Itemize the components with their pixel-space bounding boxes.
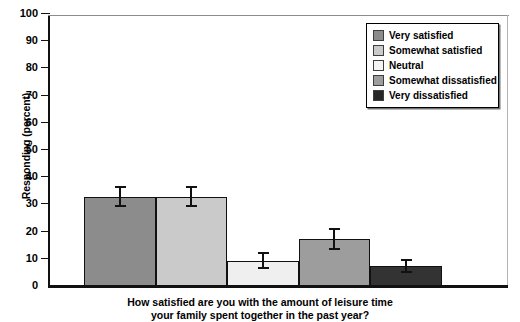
error-bar-cap-bottom: [258, 267, 269, 269]
error-bar-cap-top: [401, 259, 412, 261]
legend-swatch-icon: [373, 30, 384, 41]
error-bar-cap-top: [329, 228, 340, 230]
legend-item-1: Somewhat satisfied: [373, 43, 493, 58]
y-tick-mark: [41, 122, 50, 123]
caption-line-2: your family spent together in the past y…: [0, 309, 520, 322]
error-bar-cap-bottom: [401, 271, 412, 273]
y-tick-label: 0: [32, 279, 38, 291]
legend-item-0: Very satisfied: [373, 28, 493, 43]
legend-item-label: Neutral: [389, 61, 423, 71]
legend-item-label: Very satisfied: [389, 31, 453, 41]
y-tick-mark: [41, 13, 50, 14]
y-tick-label: 80: [26, 61, 38, 73]
error-bar-cap-top: [258, 252, 269, 254]
error-bar-stem: [190, 186, 192, 208]
legend: Very satisfiedSomewhat satisfiedNeutralS…: [366, 23, 499, 108]
error-bar-cap-top: [186, 186, 197, 188]
legend-swatch-icon: [373, 60, 384, 71]
error-bar-cap-bottom: [186, 205, 197, 207]
bar-chart-figure: Responding (percent) 0102030405060708090…: [0, 0, 520, 322]
error-bar-stem: [119, 186, 121, 208]
legend-item-label: Somewhat satisfied: [389, 46, 482, 56]
y-tick-label: 40: [26, 170, 38, 182]
caption-line-1: How satisfied are you with the amount of…: [0, 296, 520, 309]
y-tick-label: 20: [26, 225, 38, 237]
y-tick-label: 60: [26, 116, 38, 128]
y-tick-mark: [41, 67, 50, 68]
y-tick-label: 100: [20, 7, 38, 19]
y-tick-mark: [41, 258, 50, 259]
legend-item-label: Somewhat dissatisfied: [389, 76, 497, 86]
error-bar-cap-bottom: [329, 248, 340, 250]
y-tick-mark: [41, 149, 50, 150]
y-tick-label: 10: [26, 252, 38, 264]
y-tick-label: 30: [26, 197, 38, 209]
y-tick-mark: [41, 203, 50, 204]
legend-item-2: Neutral: [373, 58, 493, 73]
legend-item-4: Very dissatisfied: [373, 88, 493, 103]
y-tick-label: 90: [26, 34, 38, 46]
y-tick-mark: [41, 231, 50, 232]
y-tick-mark: [41, 40, 50, 41]
bar-0: [84, 197, 156, 285]
legend-item-label: Very dissatisfied: [389, 91, 468, 101]
legend-item-3: Somewhat dissatisfied: [373, 73, 493, 88]
y-tick-label: 70: [26, 89, 38, 101]
legend-swatch-icon: [373, 75, 384, 86]
legend-swatch-icon: [373, 90, 384, 101]
error-bar-cap-bottom: [115, 205, 126, 207]
y-tick-mark: [41, 176, 50, 177]
bar-1: [156, 197, 228, 285]
legend-swatch-icon: [373, 45, 384, 56]
x-axis-caption: How satisfied are you with the amount of…: [0, 296, 520, 321]
error-bar-stem: [333, 228, 335, 250]
error-bar-cap-top: [115, 186, 126, 188]
y-tick-label: 50: [26, 143, 38, 155]
y-tick-mark: [41, 95, 50, 96]
